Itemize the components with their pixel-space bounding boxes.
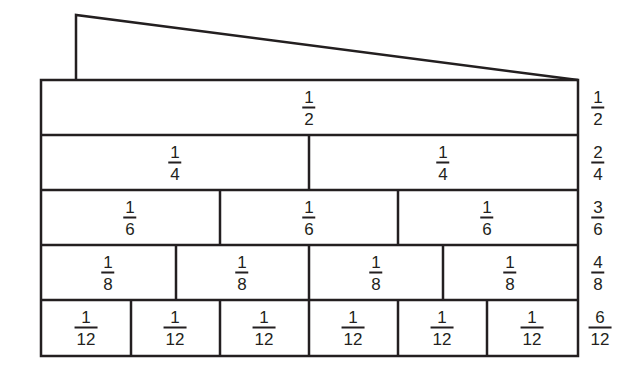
cell-fraction: 14	[436, 144, 449, 183]
cell-fraction: 12	[302, 89, 315, 128]
fraction-wall-diagram: 12 14 14 16 16 16 18 18 18 18 112 112 11…	[0, 0, 638, 376]
cell-fraction: 112	[253, 309, 276, 348]
equivalent-fraction-label: 24	[591, 144, 604, 183]
cell-fraction: 18	[101, 254, 114, 293]
cell-fraction: 112	[75, 309, 98, 348]
roof-triangle	[76, 15, 578, 80]
equivalent-fraction-label: 48	[591, 254, 604, 293]
cell-fraction: 18	[235, 254, 248, 293]
cell-fraction: 16	[123, 199, 136, 238]
equivalent-fraction-label: 36	[591, 199, 604, 238]
cell-fraction: 18	[369, 254, 382, 293]
cell-fraction: 14	[168, 144, 181, 183]
cell-fraction: 112	[164, 309, 187, 348]
cell-fraction: 112	[431, 309, 454, 348]
equivalent-fraction-label: 612	[589, 309, 612, 348]
cell-fraction: 16	[480, 199, 493, 238]
cell-fraction: 18	[503, 254, 516, 293]
cell-fraction: 112	[521, 309, 544, 348]
cell-fraction: 16	[302, 199, 315, 238]
cell-fraction: 112	[342, 309, 365, 348]
equivalent-fraction-label: 12	[591, 89, 604, 128]
